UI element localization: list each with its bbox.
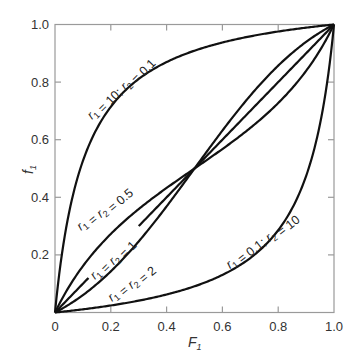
curve-label: r1 = 0.1; r2 = 10 — [223, 208, 302, 276]
x-tick-label: 0.6 — [213, 319, 231, 334]
curve-label: r1 = r2 = 0.5 — [74, 181, 136, 238]
y-tick-label: 0.2 — [31, 247, 49, 262]
y-tick-label: 1.0 — [31, 17, 49, 32]
curve-labels: r1 = 10; r2 = 0.1r1 = r2 = 0.5r1 = r2 = … — [74, 52, 303, 309]
copolymer-composition-chart: 00.20.40.60.81.00.20.40.60.81.0 r1 = 10;… — [0, 0, 357, 361]
x-tick-label: 0.2 — [102, 319, 120, 334]
y-axis-label: f1 — [20, 165, 38, 174]
x-axis-label: F1 — [188, 334, 202, 352]
y-tick-label: 0.6 — [31, 132, 49, 147]
curve-label: r1 = 10; r2 = 0.1 — [84, 52, 158, 126]
curve-r1-r2-1 — [139, 25, 334, 227]
x-tick-label: 0.4 — [158, 319, 176, 334]
x-tick-label: 0 — [51, 319, 58, 334]
x-tick-label: 1.0 — [325, 319, 343, 334]
y-tick-label: 0.4 — [31, 190, 49, 205]
y-tick-label: 0.8 — [31, 75, 49, 90]
curve-label: r1 = r2 = 1 — [87, 234, 139, 286]
x-tick-label: 0.8 — [269, 319, 287, 334]
